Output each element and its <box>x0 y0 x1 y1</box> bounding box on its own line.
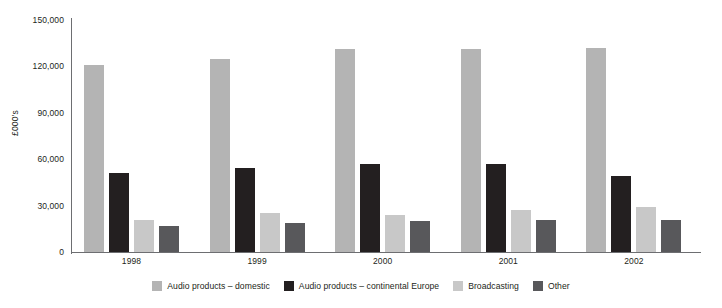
x-axis-category-label: 2001 <box>468 256 548 266</box>
bar <box>410 221 430 252</box>
y-axis-tick-label: 0 <box>59 247 64 257</box>
y-axis-tick-label: 90,000 <box>37 108 64 118</box>
legend-label: Other <box>548 281 570 291</box>
bar <box>636 207 656 252</box>
bar <box>586 48 606 252</box>
bar <box>360 164 380 252</box>
y-axis-tick-label: 60,000 <box>37 154 64 164</box>
x-axis-category-label: 1998 <box>92 256 172 266</box>
bar <box>134 220 154 252</box>
bar <box>109 173 129 252</box>
bar-group <box>84 20 179 252</box>
legend-swatch-icon <box>152 281 162 291</box>
bar <box>235 168 255 252</box>
bar <box>335 49 355 252</box>
bar <box>210 59 230 252</box>
chart-legend: Audio products – domesticAudio products … <box>0 281 722 291</box>
bar-group <box>586 20 681 252</box>
y-axis-tick-label: 150,000 <box>33 15 64 25</box>
bar-group <box>210 20 305 252</box>
bar <box>611 176 631 252</box>
legend-label: Broadcasting <box>468 281 519 291</box>
bar <box>385 215 405 252</box>
legend-item[interactable]: Audio products – continental Europe <box>284 281 439 291</box>
y-axis-tick-labels: 030,00060,00090,000120,000150,000 <box>0 0 64 308</box>
bar-group <box>461 20 556 252</box>
x-axis-category-label: 1999 <box>217 256 297 266</box>
x-axis-line <box>71 252 701 253</box>
legend-swatch-icon <box>284 281 294 291</box>
legend-item[interactable]: Broadcasting <box>453 281 519 291</box>
legend-swatch-icon <box>453 281 463 291</box>
y-axis-title: £000's <box>10 110 20 136</box>
bar <box>461 49 481 252</box>
bar <box>285 223 305 252</box>
bar-chart: 030,00060,00090,000120,000150,000 £000's… <box>0 0 722 308</box>
legend-label: Audio products – continental Europe <box>299 281 439 291</box>
legend-item[interactable]: Audio products – domestic <box>152 281 270 291</box>
x-axis-category-label: 2002 <box>594 256 674 266</box>
y-axis-tick-label: 30,000 <box>37 201 64 211</box>
bar <box>84 65 104 252</box>
legend-swatch-icon <box>533 281 543 291</box>
bar-group <box>335 20 430 252</box>
y-axis-tick-label: 120,000 <box>33 61 64 71</box>
bar <box>486 164 506 252</box>
bar <box>536 220 556 252</box>
bar <box>159 226 179 252</box>
bar <box>511 210 531 252</box>
plot-area <box>72 20 700 252</box>
bar <box>260 213 280 252</box>
legend-item[interactable]: Other <box>533 281 570 291</box>
bar <box>661 220 681 252</box>
legend-label: Audio products – domestic <box>167 281 270 291</box>
x-axis-category-label: 2000 <box>343 256 423 266</box>
